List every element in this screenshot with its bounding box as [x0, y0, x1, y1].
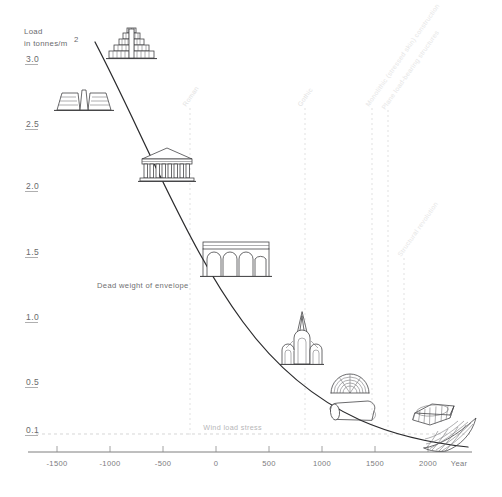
- era-labels: Roman Gothic Monolithic (stressed skin) …: [181, 2, 441, 257]
- chart-canvas: Roman Gothic Monolithic (stressed skin) …: [0, 0, 502, 497]
- x-axis-caption: Year: [451, 459, 468, 468]
- gothic-cathedral-illustration: [280, 312, 324, 364]
- x-tick-label--500: -500: [155, 459, 171, 468]
- x-tick-label-1000: 1000: [313, 459, 331, 468]
- dead-weight-curve-label: Dead weight of envelope: [97, 281, 189, 290]
- x-tick-label-0: 0: [214, 459, 219, 468]
- y-tick-label-1-0: 1.0: [26, 312, 39, 322]
- tensile-membrane-net-illustration: [424, 418, 476, 451]
- wind-load-stress-label: Wind load stress: [203, 423, 262, 432]
- stepped-pyramid-illustration: [106, 28, 157, 59]
- y-axis-title-superscript: 2: [74, 35, 79, 44]
- era-label-gothic: Gothic: [296, 86, 314, 107]
- x-axis: -1500 -1000 -500 0 500 1000 1500 2000 Ye…: [28, 446, 472, 468]
- ribbed-shell-dome-illustration: [331, 374, 369, 393]
- x-tick-label--1000: -1000: [100, 459, 121, 468]
- y-axis-title-line2: in tonnes/m: [24, 39, 68, 48]
- x-tick-label-1500: 1500: [366, 459, 384, 468]
- load-history-chart: Roman Gothic Monolithic (stressed skin) …: [0, 0, 502, 497]
- y-axis: 3.0 2.5 2.0 1.5 1.0 0.5 0.1: [25, 54, 39, 436]
- y-tick-label-2-5: 2.5: [26, 119, 39, 129]
- dead-weight-curve: [95, 42, 468, 447]
- y-axis-title: Load in tonnes/m 2: [24, 27, 79, 48]
- y-tick-label-0-5: 0.5: [26, 377, 39, 387]
- barrel-shell-illustration: [330, 401, 376, 420]
- x-tick-label--1500: -1500: [47, 459, 68, 468]
- era-dashed-lines: [190, 108, 404, 437]
- roman-aqueduct-illustration: [200, 242, 272, 276]
- era-label-monolithic: Monolithic (stressed skin) construction: [364, 2, 441, 108]
- y-tick-label-0-1: 0.1: [26, 425, 39, 435]
- y-tick-label-2-0: 2.0: [26, 181, 39, 191]
- era-label-structural-revolution: Structural revolution: [396, 200, 439, 257]
- y-tick-label-3-0: 3.0: [26, 54, 39, 64]
- greek-temple-illustration: [138, 148, 196, 181]
- cable-roof-stadium-illustration: [413, 404, 454, 425]
- y-tick-label-1-5: 1.5: [26, 247, 39, 257]
- y-axis-title-line1: Load: [24, 27, 43, 36]
- egyptian-pylon-illustration: [54, 90, 114, 110]
- era-label-roman: Roman: [181, 85, 200, 108]
- x-tick-label-500: 500: [262, 459, 276, 468]
- x-tick-label-2000: 2000: [419, 459, 437, 468]
